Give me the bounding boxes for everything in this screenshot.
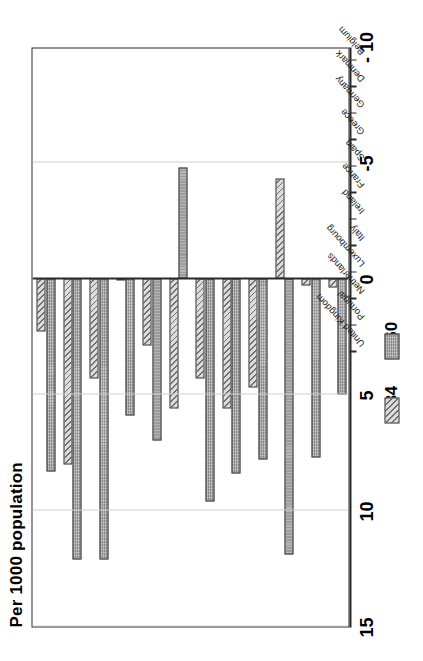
bar-spain-1960 (231, 278, 240, 473)
value-label-0: 0 (356, 274, 377, 284)
zero-line (32, 277, 348, 279)
bar-ireland-1984 (169, 278, 178, 408)
bar-series-container (32, 48, 348, 626)
gridline-15 (32, 626, 348, 627)
legend-entry-1960: 1960 (381, 321, 401, 359)
bar-spain-1984 (222, 278, 231, 408)
category-tick-ireland (349, 218, 356, 220)
value-label-15: 15 (356, 617, 377, 637)
value-label--5: -5 (356, 155, 377, 171)
bar-italy-1960 (152, 278, 161, 440)
plot-area (31, 47, 349, 627)
gridline-10 (32, 510, 348, 511)
bar-netherlands-1960 (99, 278, 108, 559)
bar-united-kingdom-1960 (46, 278, 55, 471)
gridline--5 (32, 162, 348, 163)
bar-portugal-1984 (63, 278, 72, 464)
chart-rotation-wrapper: Per 1000 population BelgiumDenmarkGerman… (0, 0, 423, 661)
value-label-10: 10 (356, 501, 377, 521)
bar-italy-1984 (142, 278, 151, 345)
category-tick-united-kingdom (349, 350, 356, 352)
chart-title: Per 1000 population (6, 462, 26, 627)
bar-greece-1984 (248, 278, 257, 387)
legend-swatch-1960 (384, 333, 399, 359)
value-label-5: 5 (356, 390, 377, 400)
bar-france-1960 (205, 278, 214, 501)
chart-legend: 1984 1960 (381, 321, 401, 423)
value-label--10: - 10 (356, 31, 377, 62)
bar-chart-figure: Per 1000 population BelgiumDenmarkGerman… (0, 0, 423, 661)
bar-united-kingdom-1984 (36, 278, 45, 331)
bar-france-1984 (195, 278, 204, 378)
bar-belgium-1984 (328, 278, 337, 287)
legend-swatch-1984 (384, 397, 399, 423)
gridline-5 (32, 394, 348, 395)
bar-germany-1960 (284, 278, 293, 554)
bar-greece-1960 (258, 278, 267, 459)
bar-portugal-1960 (72, 278, 81, 559)
legend-entry-1984: 1984 (381, 385, 401, 423)
bar-ireland-1960 (178, 167, 187, 278)
bar-netherlands-1984 (89, 278, 98, 378)
bar-germany-1984 (275, 178, 284, 278)
